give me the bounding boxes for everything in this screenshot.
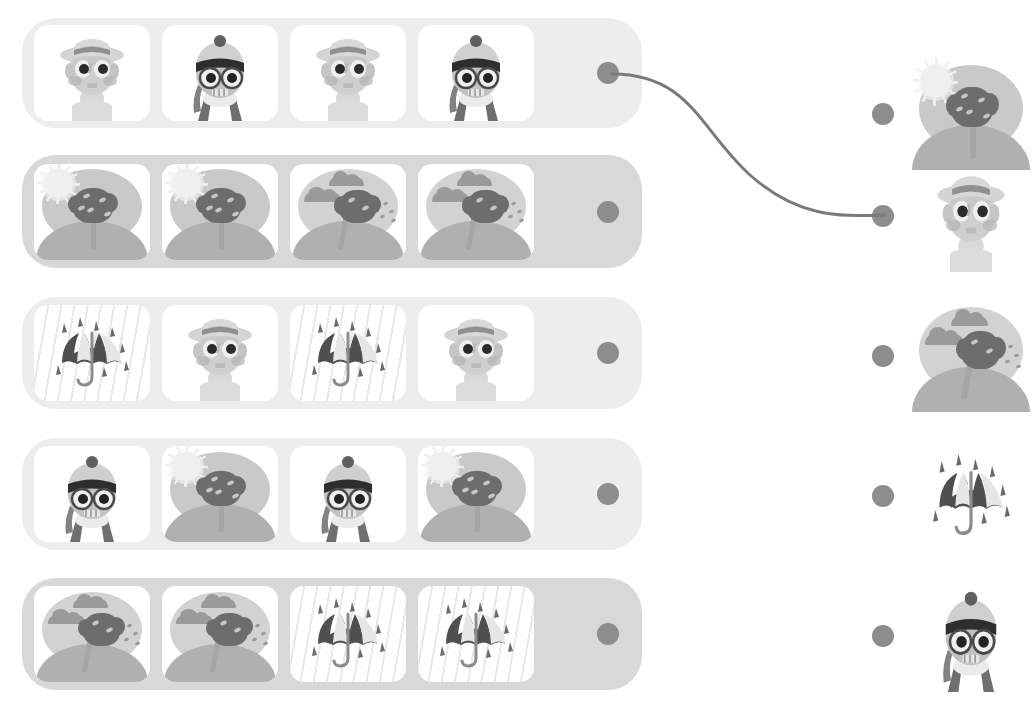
rain-umbrella-icon xyxy=(910,440,1032,552)
connector-line-row1-to-answer2[interactable] xyxy=(612,74,884,216)
pattern-card[interactable] xyxy=(418,25,534,121)
worksheet-canvas xyxy=(0,0,1033,701)
pattern-card[interactable] xyxy=(34,305,150,401)
pattern-card[interactable] xyxy=(34,25,150,121)
boy-with-beanie-icon xyxy=(290,446,406,542)
rain-umbrella-icon xyxy=(290,305,406,401)
pattern-card[interactable] xyxy=(290,446,406,542)
pattern-card[interactable] xyxy=(290,586,406,682)
windy-tree-icon xyxy=(910,300,1032,412)
answer-option-1[interactable] xyxy=(872,58,1032,170)
pattern-card[interactable] xyxy=(34,164,150,260)
windy-tree-icon xyxy=(418,164,534,260)
boy-with-beanie-icon xyxy=(418,25,534,121)
pattern-card[interactable] xyxy=(418,586,534,682)
pattern-row-1[interactable] xyxy=(22,18,642,128)
answer-option-3[interactable] xyxy=(872,300,1032,412)
answer-connector-dot[interactable] xyxy=(872,345,894,367)
answer-option-2[interactable] xyxy=(872,160,1032,272)
pattern-card[interactable] xyxy=(162,586,278,682)
row-connector-dot[interactable] xyxy=(597,483,619,505)
pattern-card[interactable] xyxy=(290,25,406,121)
man-with-hat-icon xyxy=(910,160,1032,272)
answer-connector-dot[interactable] xyxy=(872,625,894,647)
pattern-card[interactable] xyxy=(162,164,278,260)
answer-connector-dot[interactable] xyxy=(872,103,894,125)
pattern-row-4[interactable] xyxy=(22,438,642,550)
pattern-card[interactable] xyxy=(290,305,406,401)
pattern-card[interactable] xyxy=(290,164,406,260)
man-with-hat-icon xyxy=(162,305,278,401)
row-connector-dot[interactable] xyxy=(597,62,619,84)
answer-option-5[interactable] xyxy=(872,580,1032,692)
pattern-card[interactable] xyxy=(162,25,278,121)
pattern-card[interactable] xyxy=(418,305,534,401)
man-with-hat-icon xyxy=(290,25,406,121)
man-with-hat-icon xyxy=(418,305,534,401)
row-connector-dot[interactable] xyxy=(597,623,619,645)
sunny-tree-icon xyxy=(162,446,278,542)
boy-with-beanie-icon xyxy=(162,25,278,121)
windy-tree-icon xyxy=(290,164,406,260)
pattern-card[interactable] xyxy=(418,446,534,542)
boy-with-beanie-icon xyxy=(34,446,150,542)
sunny-tree-icon xyxy=(910,58,1032,170)
pattern-card[interactable] xyxy=(162,446,278,542)
rain-umbrella-icon xyxy=(290,586,406,682)
pattern-row-2[interactable] xyxy=(22,155,642,268)
sunny-tree-icon xyxy=(162,164,278,260)
sunny-tree-icon xyxy=(34,164,150,260)
pattern-row-5[interactable] xyxy=(22,578,642,690)
answer-connector-dot[interactable] xyxy=(872,205,894,227)
windy-tree-icon xyxy=(162,586,278,682)
pattern-card[interactable] xyxy=(418,164,534,260)
pattern-card[interactable] xyxy=(34,586,150,682)
row-connector-dot[interactable] xyxy=(597,342,619,364)
answer-option-4[interactable] xyxy=(872,440,1032,552)
pattern-row-3[interactable] xyxy=(22,297,642,409)
row-connector-dot[interactable] xyxy=(597,201,619,223)
pattern-card[interactable] xyxy=(162,305,278,401)
windy-tree-icon xyxy=(34,586,150,682)
rain-umbrella-icon xyxy=(418,586,534,682)
pattern-card[interactable] xyxy=(34,446,150,542)
answer-connector-dot[interactable] xyxy=(872,485,894,507)
man-with-hat-icon xyxy=(34,25,150,121)
rain-umbrella-icon xyxy=(34,305,150,401)
boy-with-beanie-icon xyxy=(910,580,1032,692)
sunny-tree-icon xyxy=(418,446,534,542)
